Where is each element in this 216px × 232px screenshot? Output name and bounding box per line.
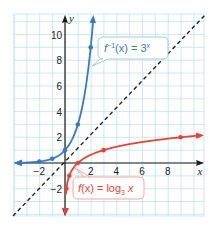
graph: −22468−2246810xy f−1(x) = 3x f(x) = log3… (0, 0, 216, 232)
svg-text:2: 2 (88, 166, 94, 177)
svg-text:x: x (197, 165, 203, 177)
svg-text:−2: −2 (34, 166, 46, 177)
svg-text:10: 10 (51, 30, 63, 41)
callout-logarithm: f(x) = log3 x (73, 168, 144, 199)
svg-text:−2: −2 (51, 184, 63, 195)
svg-text:6: 6 (139, 166, 145, 177)
svg-text:4: 4 (56, 107, 62, 118)
svg-text:8: 8 (56, 55, 62, 66)
svg-text:4: 4 (114, 166, 120, 177)
svg-text:2: 2 (56, 132, 62, 143)
svg-text:y: y (68, 12, 74, 24)
callout-logarithm-label: f(x) = log3 x (78, 182, 134, 196)
svg-text:8: 8 (165, 166, 171, 177)
svg-text:6: 6 (56, 81, 62, 92)
